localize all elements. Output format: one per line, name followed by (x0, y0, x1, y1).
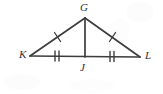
triangle-diagram-canvas (0, 0, 163, 94)
geometry-figure: G K J L (0, 0, 163, 94)
scan-artifacts (0, 0, 163, 94)
vertex-label-J: J (80, 62, 85, 73)
vertex-label-K: K (19, 49, 26, 60)
vertex-label-L: L (145, 50, 151, 61)
vertex-label-G: G (80, 2, 88, 13)
